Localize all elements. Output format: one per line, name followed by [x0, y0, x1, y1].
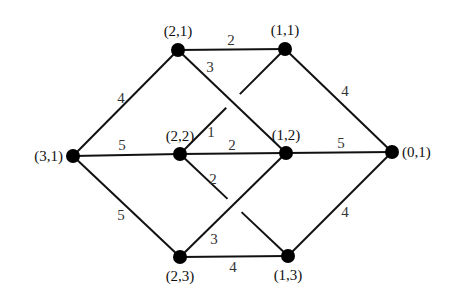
node-n23: [173, 250, 187, 264]
edge-n31-n22: [73, 154, 180, 156]
edge-segment: [242, 212, 288, 256]
edge-n21-n11: [178, 49, 285, 50]
node-label: (2,2): [166, 128, 195, 145]
edge-weight-label: 4: [341, 83, 349, 99]
node-label: (1,2): [272, 127, 301, 144]
node-label: (2,3): [166, 268, 195, 285]
graph-diagram: 4552312234454 (3,1)(2,1)(2,2)(2,3)(1,1)(…: [0, 0, 455, 301]
node-label: (3,1): [34, 148, 63, 165]
edge-segment: [288, 152, 392, 256]
edge-segment: [178, 49, 285, 50]
edge-n22-n12: [180, 153, 286, 154]
edge-segment: [180, 153, 286, 154]
edge-weight-label: 2: [228, 137, 236, 153]
node-label: (0,1): [402, 144, 431, 161]
edge-weight-label: 2: [209, 171, 217, 187]
edge-weight-label: 5: [118, 137, 126, 153]
edges-layer: [73, 49, 392, 257]
edge-n12-n01: [286, 152, 392, 153]
edge-weight-label: 1: [207, 124, 215, 140]
edge-n13-n01: [288, 152, 392, 256]
edge-n31-n23: [73, 156, 180, 257]
node-n12: [279, 146, 293, 160]
node-n01: [385, 145, 399, 159]
edge-segment: [180, 256, 288, 257]
edge-segment: [286, 152, 392, 153]
edge-n23-n13: [180, 256, 288, 257]
edge-weight-label: 3: [210, 231, 218, 247]
edge-weight-label: 3: [206, 59, 214, 75]
node-n31: [66, 149, 80, 163]
node-n21: [171, 43, 185, 57]
node-n11: [278, 42, 292, 56]
edge-weight-label: 4: [341, 204, 349, 220]
edge-segment: [73, 156, 180, 257]
node-label: (1,1): [271, 22, 300, 39]
node-label: (1,3): [274, 267, 303, 284]
node-label: (2,1): [164, 23, 193, 40]
edge-weight-label: 4: [229, 259, 237, 275]
node-n22: [173, 147, 187, 161]
edge-weight-label: 2: [227, 32, 235, 48]
edge-segment: [240, 49, 285, 94]
edge-weight-label: 5: [117, 207, 125, 223]
edge-weight-label: 5: [337, 135, 345, 151]
node-n13: [281, 249, 295, 263]
edge-segment: [73, 154, 180, 156]
edge-weight-label: 4: [117, 90, 125, 106]
edge-segment: [180, 154, 228, 199]
